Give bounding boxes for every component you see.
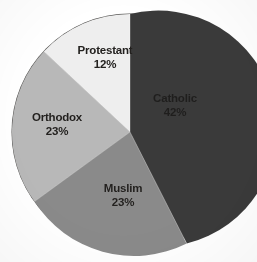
pie-label-catholic-name: Catholic (153, 92, 197, 106)
pie-label-orthodox-value: 23% (32, 125, 82, 139)
pie-label-protestant: Protestant 12% (78, 44, 133, 71)
pie-label-orthodox-name: Orthodox (32, 111, 82, 125)
pie-chart-figure: Catholic 42% Muslim 23% Orthodox 23% Pro… (0, 0, 257, 262)
pie-label-protestant-value: 12% (78, 58, 133, 72)
pie-label-orthodox: Orthodox 23% (32, 111, 82, 138)
pie-label-catholic-value: 42% (153, 106, 197, 120)
pie-label-muslim: Muslim 23% (104, 182, 142, 209)
pie-label-muslim-name: Muslim (104, 182, 142, 196)
pie-label-muslim-value: 23% (104, 196, 142, 210)
pie-label-protestant-name: Protestant (78, 44, 133, 58)
pie-label-catholic: Catholic 42% (153, 92, 197, 119)
